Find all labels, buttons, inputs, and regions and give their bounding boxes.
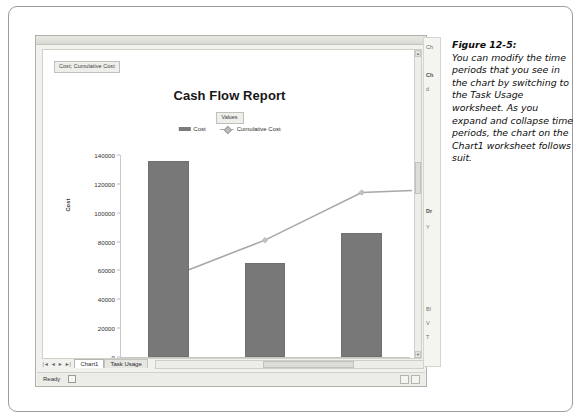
- task-pane-text: V: [426, 320, 430, 326]
- horizontal-scrollbar-thumb[interactable]: [263, 361, 354, 368]
- status-text: Ready: [37, 376, 60, 382]
- y-axis-tick-mark: [117, 299, 120, 300]
- sheet-nav-arrow-icon[interactable]: ◄: [50, 361, 56, 367]
- scroll-up-arrow-icon[interactable]: ▲: [415, 50, 421, 57]
- y-axis-tick-mark: [117, 183, 120, 184]
- task-pane-text: Y: [426, 224, 430, 230]
- task-pane-text: T: [426, 334, 429, 340]
- figure-page: Cost; Cumulative Cost Cash Flow Report V…: [0, 0, 581, 420]
- task-pane[interactable]: ChChdDrYBlVT: [423, 37, 441, 367]
- task-pane-text: Dr: [426, 208, 432, 214]
- excel-window: Cost; Cumulative Cost Cash Flow Report V…: [35, 35, 427, 387]
- sheet-nav-arrow-icon[interactable]: ►: [57, 361, 63, 367]
- status-right-group: [400, 375, 420, 384]
- task-pane-text: d: [426, 86, 429, 92]
- task-pane-text: Bl: [426, 306, 431, 312]
- horizontal-scrollbar[interactable]: [155, 360, 424, 369]
- sheet-nav-arrow-icon[interactable]: ►|: [64, 361, 71, 367]
- sheet-nav-arrow-icon[interactable]: |◄: [42, 361, 49, 367]
- chart-plot-area: Cost 02000040000600008000010000012000014…: [43, 50, 417, 359]
- y-axis-tick-mark: [117, 212, 120, 213]
- sheet-tab-chart1[interactable]: Chart1: [74, 359, 104, 368]
- sheet-tabs: Chart1Task Usage: [74, 360, 147, 368]
- chart-vertical-scrollbar[interactable]: ▲ ▼: [414, 49, 422, 359]
- excel-title-bar: [36, 36, 426, 45]
- bar-cost[interactable]: [148, 161, 189, 357]
- scrollbar-thumb[interactable]: [415, 162, 421, 194]
- y-axis-tick-mark: [117, 270, 120, 271]
- figure-frame: Cost; Cumulative Cost Cash Flow Report V…: [8, 6, 573, 412]
- task-pane-text: Ch: [426, 72, 433, 78]
- bar-cost[interactable]: [245, 263, 286, 357]
- scroll-down-arrow-icon[interactable]: ▼: [415, 351, 421, 358]
- sheet-icon: [68, 375, 76, 383]
- line-marker[interactable]: [262, 237, 268, 243]
- figure-caption-body: You can modify the time periods that you…: [452, 52, 574, 165]
- status-box-icon: [400, 375, 409, 384]
- figure-caption: Figure 12-5: You can modify the time per…: [452, 39, 574, 165]
- bar-cost[interactable]: [341, 233, 382, 357]
- y-axis-tick-mark: [117, 155, 120, 156]
- status-bar: Ready: [37, 372, 425, 385]
- task-pane-text: Ch: [426, 44, 433, 50]
- line-marker[interactable]: [359, 190, 365, 196]
- sheet-tab-bar: |◄◄►►| Chart1Task Usage: [40, 358, 424, 370]
- y-axis-tick-mark: [117, 328, 120, 329]
- status-box-icon: [411, 375, 420, 384]
- figure-caption-label: Figure 12-5:: [452, 39, 516, 50]
- sheet-nav-buttons[interactable]: |◄◄►►|: [40, 361, 71, 367]
- chart-sheet-canvas[interactable]: Cost; Cumulative Cost Cash Flow Report V…: [42, 49, 417, 359]
- sheet-tab-task-usage[interactable]: Task Usage: [104, 359, 147, 368]
- y-axis-tick-mark: [117, 241, 120, 242]
